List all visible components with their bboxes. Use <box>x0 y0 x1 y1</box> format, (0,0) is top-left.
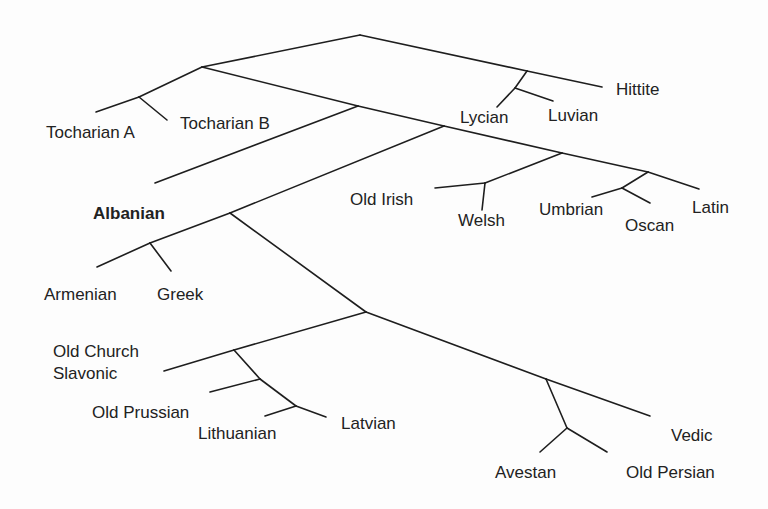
leaf-albanian: Albanian <box>93 204 165 224</box>
tree-branch <box>234 350 260 379</box>
tree-branch <box>139 67 202 97</box>
tree-branch <box>358 106 444 126</box>
tree-branch <box>139 97 167 120</box>
leaf-old-prussian: Old Prussian <box>92 403 189 423</box>
leaf-umbrian: Umbrian <box>539 200 603 220</box>
tree-branch <box>592 188 622 197</box>
tree-branch <box>360 35 527 71</box>
leaf-old-irish: Old Irish <box>350 190 413 210</box>
tree-branch <box>202 35 360 67</box>
tree-branch <box>515 71 527 88</box>
tree-branch <box>164 350 234 371</box>
leaf-lycian: Lycian <box>460 108 509 128</box>
tree-branch <box>485 153 562 183</box>
tree-branch <box>622 172 648 188</box>
leaf-hittite: Hittite <box>616 80 659 100</box>
tree-branch <box>296 406 326 417</box>
leaf-oscan: Oscan <box>625 216 674 236</box>
leaf-avestan: Avestan <box>495 463 556 483</box>
tree-branch <box>546 379 567 428</box>
tree-branch <box>482 183 485 210</box>
leaf-tocharian-a: Tocharian A <box>46 123 135 143</box>
tree-branch <box>96 97 139 112</box>
tree-branch <box>515 88 553 101</box>
tree-branch <box>622 188 650 203</box>
tree-branch <box>97 243 150 267</box>
tree-branch <box>444 126 562 153</box>
tree-branch <box>497 88 515 107</box>
leaf-old-church-slavonic: Old Church Slavonic <box>53 341 139 385</box>
tree-branch <box>150 243 171 271</box>
tree-branch <box>546 379 650 416</box>
tree-branch <box>234 312 366 350</box>
leaf-armenian: Armenian <box>44 285 117 305</box>
tree-branch <box>540 428 567 452</box>
leaf-greek: Greek <box>157 285 203 305</box>
tree-branch <box>366 312 546 379</box>
language-tree-diagram: Hittite Lycian Luvian Tocharian A Tochar… <box>0 0 768 509</box>
tree-branch <box>648 172 699 189</box>
leaf-luvian: Luvian <box>548 106 598 126</box>
tree-branch <box>562 153 648 172</box>
leaf-latvian: Latvian <box>341 414 396 434</box>
leaf-latin: Latin <box>692 198 729 218</box>
tree-branch <box>265 406 296 416</box>
tree-branch <box>210 379 260 392</box>
leaf-welsh: Welsh <box>458 211 505 231</box>
leaf-vedic: Vedic <box>671 426 713 446</box>
tree-branch <box>260 379 296 406</box>
tree-branch <box>527 71 602 87</box>
tree-branch <box>435 183 485 188</box>
leaf-lithuanian: Lithuanian <box>198 424 276 444</box>
tree-branch <box>202 67 358 106</box>
tree-branch <box>567 428 607 452</box>
leaf-tocharian-b: Tocharian B <box>180 114 270 134</box>
tree-branch <box>230 213 366 312</box>
leaf-old-persian: Old Persian <box>626 463 715 483</box>
